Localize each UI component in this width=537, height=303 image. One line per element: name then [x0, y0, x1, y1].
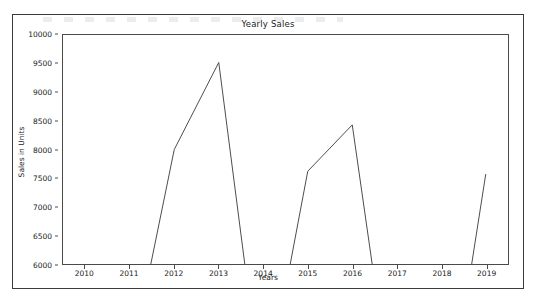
y-tick-mark [55, 265, 59, 266]
x-tick-mark [263, 265, 264, 269]
y-tick-label: 9500 [33, 58, 52, 67]
x-tick-mark [442, 265, 443, 269]
y-tick-mark [55, 207, 59, 208]
chart-title: Yearly Sales [13, 19, 523, 29]
sales-line-series [63, 35, 508, 264]
x-tick-mark [353, 265, 354, 269]
plot-clip-region [63, 35, 508, 264]
x-tick-mark [218, 265, 219, 269]
x-tick-mark [174, 265, 175, 269]
y-tick-label: 6500 [33, 232, 52, 241]
x-tick-mark [308, 265, 309, 269]
y-tick-label: 7000 [33, 203, 52, 212]
plot-axes [62, 34, 509, 265]
y-tick-label: 7500 [33, 174, 52, 183]
x-tick-mark [487, 265, 488, 269]
y-tick-label: 8000 [33, 145, 52, 154]
figure-panel: Yearly Sales Sales in Units 600065007000… [12, 14, 524, 289]
y-tick-label: 8500 [33, 116, 52, 125]
y-tick-label: 10000 [28, 30, 52, 39]
y-tick-label: 6000 [33, 261, 52, 270]
x-tick-mark [84, 265, 85, 269]
y-tick-mark [55, 120, 59, 121]
y-tick-mark [55, 62, 59, 63]
y-tick-label: 9000 [33, 87, 52, 96]
y-tick-mark [55, 34, 59, 35]
y-tick-mark [55, 149, 59, 150]
x-axis-label: Years [13, 273, 523, 282]
y-tick-mark [55, 236, 59, 237]
x-tick-mark [129, 265, 130, 269]
y-tick-mark [55, 91, 59, 92]
y-axis-tick-area: 6000650070007500800085009000950010000 [13, 34, 58, 265]
x-tick-mark [397, 265, 398, 269]
y-tick-mark [55, 178, 59, 179]
